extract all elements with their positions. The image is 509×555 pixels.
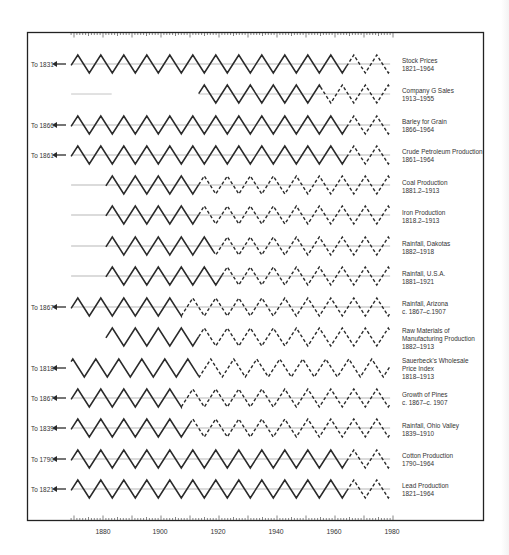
svg-text:c. 1867–c.1907: c. 1867–c.1907 — [402, 308, 446, 315]
x-tick-1880: 1880 — [95, 528, 110, 535]
svg-text:Growth of Pines: Growth of Pines — [402, 391, 447, 398]
svg-text:To 1861: To 1861 — [31, 152, 54, 159]
cycle-row — [71, 176, 390, 194]
svg-text:To 1790: To 1790 — [31, 456, 54, 463]
left-label-ohio: To 1839 — [31, 425, 54, 432]
cycle-row — [71, 206, 390, 224]
left-label-sauerbeck: To 1818 — [31, 365, 54, 372]
svg-text:To 1831: To 1831 — [31, 61, 54, 68]
series-label-coal: Coal Production 1881.2–1913 — [402, 179, 448, 194]
left-label-crude: To 1861 — [31, 152, 54, 159]
series-label-iron: Iron Production 1818.2–1913 — [402, 209, 446, 224]
cycle-row — [52, 480, 390, 498]
svg-text:Price Index: Price Index — [402, 365, 435, 372]
svg-text:To 1821: To 1821 — [31, 486, 54, 493]
svg-text:To 1867: To 1867 — [31, 304, 54, 311]
cycle-row — [52, 359, 390, 377]
cycle-row — [71, 85, 390, 103]
svg-text:To 1818: To 1818 — [31, 365, 54, 372]
svg-text:c. 1867–c. 1907: c. 1867–c. 1907 — [402, 399, 448, 406]
svg-text:1821–1964: 1821–1964 — [402, 65, 434, 72]
left-label-pines: To 1867 — [31, 395, 54, 402]
series-label-arizona: Rainfall, Arizona c. 1867–c.1907 — [402, 300, 449, 315]
projected-cycle-line — [199, 328, 390, 346]
svg-text:Iron Production: Iron Production — [402, 209, 446, 216]
projected-cycle-line — [199, 359, 390, 377]
cycle-row — [52, 146, 390, 164]
left-label-stock-prices: To 1831 — [31, 61, 54, 68]
series-label-lead: Lead Production 1821–1964 — [402, 482, 449, 497]
series-label-stock-prices: Stock Prices 1821–1964 — [402, 57, 438, 72]
series-label-barley: Barley for Grain 1866–1964 — [402, 118, 447, 133]
bottom-axis-ticks — [71, 516, 393, 521]
series-label-ohio: Rainfall, Ohio Valley 1839–1910 — [402, 422, 460, 437]
svg-text:1881–1921: 1881–1921 — [402, 278, 434, 285]
svg-text:1913–1955: 1913–1955 — [402, 95, 434, 102]
svg-text:Cotton Production: Cotton Production — [402, 452, 454, 459]
svg-text:Company G Sales: Company G Sales — [402, 87, 454, 95]
series-label-company-g: Company G Sales 1913–1955 — [402, 87, 454, 102]
cycle-row — [52, 419, 390, 437]
x-tick-1980: 1980 — [384, 528, 399, 535]
svg-text:Manufacturing Production: Manufacturing Production — [402, 335, 475, 343]
page-edge — [501, 0, 509, 555]
left-label-lead: To 1821 — [31, 486, 54, 493]
svg-text:1882–1913: 1882–1913 — [402, 343, 434, 350]
cycle-row — [71, 237, 390, 255]
x-tick-1960: 1960 — [326, 528, 341, 535]
svg-text:1839–1910: 1839–1910 — [402, 430, 434, 437]
x-tick-1920: 1920 — [210, 528, 225, 535]
solid-cycle-line — [106, 328, 199, 346]
series-label-raw-materials: Raw Materials of Manufacturing Productio… — [402, 327, 475, 350]
svg-text:Barley for Grain: Barley for Grain — [402, 118, 447, 126]
solid-cycle-line — [71, 359, 199, 377]
series-label-usa: Rainfall, U.S.A. 1881–1921 — [402, 270, 446, 285]
cycle-row — [52, 55, 390, 73]
cycles-chart: 1880 1900 1920 1940 1960 1980 To 1831 To… — [0, 0, 509, 555]
x-tick-1940: 1940 — [268, 528, 283, 535]
cycle-row — [71, 267, 390, 285]
cycle-row — [52, 298, 390, 316]
svg-text:Rainfall, Arizona: Rainfall, Arizona — [402, 300, 449, 307]
svg-text:To 1839: To 1839 — [31, 425, 54, 432]
series-label-dakotas: Rainfall, Dakotas 1882–1918 — [402, 240, 450, 255]
svg-text:To 1866: To 1866 — [31, 122, 54, 129]
svg-text:To 1867: To 1867 — [31, 395, 54, 402]
svg-text:Rainfall, Ohio Valley: Rainfall, Ohio Valley — [402, 422, 460, 430]
series-label-sauerbeck: Sauerbeck's Wholesale Price Index 1818–1… — [402, 357, 469, 380]
top-axis-ticks — [71, 33, 393, 38]
svg-text:Sauerbeck's Wholesale: Sauerbeck's Wholesale — [402, 357, 469, 364]
svg-text:1882–1918: 1882–1918 — [402, 248, 434, 255]
series-label-crude: Crude Petroleum Production 1861–1964 — [402, 148, 483, 163]
svg-text:Stock Prices: Stock Prices — [402, 57, 438, 64]
x-tick-1900: 1900 — [152, 528, 167, 535]
series-label-pines: Growth of Pines c. 1867–c. 1907 — [402, 391, 448, 406]
cycle-row — [52, 116, 390, 134]
svg-text:Rainfall, U.S.A.: Rainfall, U.S.A. — [402, 270, 446, 277]
svg-text:1866–1964: 1866–1964 — [402, 126, 434, 133]
svg-text:Coal Production: Coal Production — [402, 179, 448, 186]
left-label-cotton: To 1790 — [31, 456, 54, 463]
svg-text:1881.2–1913: 1881.2–1913 — [402, 187, 440, 194]
left-label-arizona: To 1867 — [31, 304, 54, 311]
svg-text:Crude Petroleum Production: Crude Petroleum Production — [402, 148, 483, 155]
series-label-cotton: Cotton Production 1790–1964 — [402, 452, 454, 467]
cycle-row — [106, 328, 390, 346]
cycle-rows — [52, 55, 390, 498]
cycle-row — [52, 389, 390, 407]
svg-text:Lead Production: Lead Production — [402, 482, 449, 489]
left-label-barley: To 1866 — [31, 122, 54, 129]
svg-text:1818–1913: 1818–1913 — [402, 373, 434, 380]
svg-text:1821–1964: 1821–1964 — [402, 490, 434, 497]
svg-text:1790–1964: 1790–1964 — [402, 460, 434, 467]
svg-text:Rainfall, Dakotas: Rainfall, Dakotas — [402, 240, 450, 247]
svg-text:1861–1964: 1861–1964 — [402, 156, 434, 163]
svg-text:1818.2–1913: 1818.2–1913 — [402, 217, 440, 224]
cycle-row — [52, 450, 390, 468]
svg-text:Raw Materials of: Raw Materials of — [402, 327, 450, 334]
